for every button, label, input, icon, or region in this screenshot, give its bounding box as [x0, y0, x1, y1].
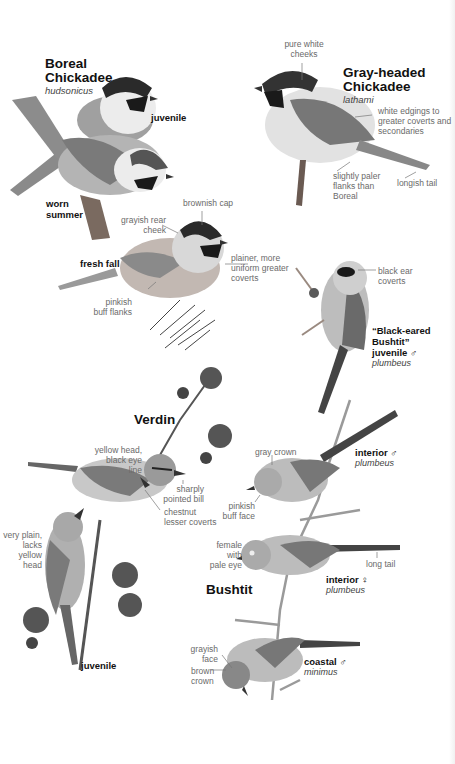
annotation-line: cheeks: [291, 49, 318, 59]
annotation-very-plain: very plain, lacks yellow head: [0, 530, 42, 570]
form-label-line: interior ♀: [326, 574, 369, 585]
species-name: Chickadee: [45, 70, 113, 85]
annotation-female-pale-eye: female with pale eye: [200, 540, 242, 570]
annotation-line: uniform greater: [231, 263, 289, 273]
annotation-line: very plain,: [3, 530, 42, 540]
annotation-line: slightly paler: [333, 171, 380, 181]
annotation-sharply-pointed-bill: sharply pointed bill: [160, 484, 204, 504]
form-label-line: “Black-eared: [372, 325, 431, 336]
annotation-pinkish-buff-face: pinkish buff face: [220, 501, 255, 521]
annotation-line: pure white: [284, 39, 323, 49]
annotation-line: cheek: [143, 225, 166, 235]
annotation-gray-crown: gray crown: [255, 447, 297, 457]
annotation-pinkish-buff-flanks: pinkish buff flanks: [90, 297, 132, 317]
annotation-line: face: [202, 654, 218, 664]
field-guide-page: Boreal Chickadee hudsonicus juvenile wor…: [0, 0, 455, 764]
annotation-line: plainer, more: [231, 253, 280, 263]
annotation-line: chestnut: [164, 507, 196, 517]
annotation-line: black eye line: [106, 455, 142, 475]
form-label-line: interior ♂: [355, 447, 398, 458]
species-name: Gray-headed: [343, 65, 426, 80]
annotation-brown-crown: brown crown: [191, 666, 214, 686]
annotation-grayish-face: grayish face: [190, 644, 218, 664]
annotation-line: sharply: [177, 484, 204, 494]
subspecies-name: hudsonicus: [45, 85, 113, 96]
bushtit-interior-female-illustration: [236, 535, 400, 575]
form-label-line: juvenile ♂: [372, 347, 417, 358]
subspecies-name: plumbeus: [326, 585, 369, 596]
annotation-line: pinkish: [106, 297, 132, 307]
form-label-coastal-male: coastal ♂ minimus: [304, 656, 347, 678]
verdin-juvenile-illustration: [45, 508, 85, 665]
form-label-interior-female: interior ♀ plumbeus: [326, 574, 369, 596]
annotation-yellow-head: yellow head, black eye line: [92, 445, 142, 475]
annotation-chestnut-lesser-coverts: chestnut lesser coverts: [164, 507, 216, 527]
form-label-fresh-fall: fresh fall: [80, 258, 120, 269]
annotation-line: black ear: [378, 266, 413, 276]
annotation-line: head: [23, 560, 42, 570]
annotation-line: buff flanks: [93, 307, 132, 317]
subspecies-name: lathami: [343, 94, 426, 105]
black-eared-bushtit-illustration: [296, 261, 369, 414]
annotation-line: Boreal: [333, 191, 358, 201]
annotation-line: pale eye: [210, 560, 242, 570]
annotation-line: pointed bill: [163, 494, 204, 504]
annotation-line: lesser coverts: [164, 517, 216, 527]
boreal-chickadee-title: Boreal Chickadee hudsonicus: [45, 57, 113, 96]
subspecies-name: plumbeus: [355, 458, 398, 469]
annotation-line: crown: [191, 676, 214, 686]
annotation-line: grayish rear: [121, 215, 166, 225]
subspecies-name: minimus: [304, 667, 347, 678]
annotation-plainer-coverts: plainer, more uniform greater coverts: [231, 253, 289, 283]
annotation-line: female with: [216, 540, 242, 560]
gray-headed-chickadee-title: Gray-headed Chickadee lathami: [343, 66, 426, 105]
verdin-title: Verdin: [134, 413, 175, 427]
form-label-interior-male: interior ♂ plumbeus: [355, 447, 398, 469]
annotation-long-tail: long tail: [366, 559, 395, 569]
annotation-line: grayish: [191, 644, 218, 654]
form-label-line: worn: [46, 198, 69, 209]
annotation-white-edgings: white edgings to greater coverts and sec…: [378, 106, 451, 136]
annotation-line: secondaries: [378, 126, 424, 136]
annotation-line: brown: [191, 666, 214, 676]
annotation-longish-tail: longish tail: [397, 178, 437, 188]
boreal-fresh-fall-illustration: [58, 221, 228, 350]
annotation-line: buff face: [223, 511, 255, 521]
annotation-pure-white-cheeks: pure white cheeks: [284, 39, 324, 59]
bushtit-title: Bushtit: [206, 583, 253, 597]
form-label-worn-summer: worn summer: [46, 198, 83, 220]
annotation-brownish-cap: brownish cap: [183, 198, 233, 208]
form-label-black-eared-bushtit: “Black-eared Bushtit” juvenile ♂ plumbeu…: [372, 325, 431, 369]
subspecies-name: plumbeus: [372, 358, 431, 369]
form-label-juvenile: juvenile: [151, 112, 186, 123]
annotation-line: pinkish: [229, 501, 255, 511]
form-label-line: summer: [46, 209, 83, 220]
form-label-verdin-juvenile: juvenile: [81, 660, 116, 671]
form-label-line: Bushtit”: [372, 336, 409, 347]
annotation-paler-flanks: slightly paler flanks than Boreal: [333, 171, 380, 201]
annotation-line: flanks than: [333, 181, 374, 191]
annotation-line: white edgings to: [378, 106, 439, 116]
annotation-line: coverts: [378, 276, 405, 286]
annotation-black-ear-coverts: black ear coverts: [378, 266, 413, 286]
annotation-grayish-rear-cheek: grayish rear cheek: [118, 215, 166, 235]
annotation-line: greater coverts and: [378, 116, 451, 126]
annotation-line: coverts: [231, 273, 258, 283]
species-name: Boreal: [45, 56, 87, 71]
species-name: Chickadee: [343, 79, 411, 94]
form-label-line: coastal ♂: [304, 656, 347, 667]
annotation-line: lacks yellow: [18, 540, 42, 560]
annotation-line: yellow head,: [95, 445, 142, 455]
